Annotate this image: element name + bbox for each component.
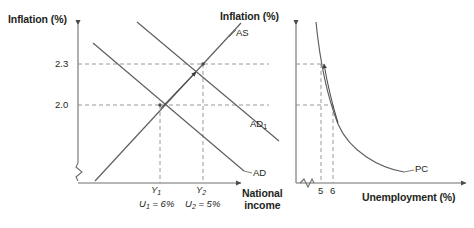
ad-leader-line: [244, 171, 252, 173]
curve-label-pc: PC: [415, 164, 428, 174]
left-equilibrium-points: [158, 62, 204, 106]
right-x-axis-label: Unemployment (%): [362, 192, 456, 203]
left-note-u2: U2 = 5%: [185, 199, 220, 209]
curve-label-as: AS: [236, 28, 249, 38]
left-x-axis-label-line1: National: [242, 188, 283, 200]
left-note-u1-base: U: [139, 198, 146, 209]
equilibrium-point-2: [201, 62, 204, 65]
right-xtick-6: 6: [330, 186, 335, 196]
curve-label-ad1-subscript: 1: [263, 123, 267, 130]
curve-label-ad1: AD1: [250, 119, 267, 129]
figure-canvas: Inflation (%) 2.3 2.0 Y1 Y2 U1 = 6% U2 =…: [0, 0, 474, 228]
pc-leader-line: [404, 170, 414, 172]
as-leader-line: [229, 30, 236, 37]
curve-pc-line: [316, 22, 404, 172]
left-y-axis-label: Inflation (%): [8, 14, 67, 25]
pc-movement-arrow: [324, 64, 338, 123]
left-x-axis-label-line2: income: [242, 200, 283, 212]
left-xtick-y2: Y2: [196, 185, 206, 195]
left-note-u1-value: = 6%: [150, 198, 175, 209]
left-x-axis-label: National income: [242, 188, 283, 211]
left-note-u1-subscript: 1: [146, 203, 150, 210]
left-xtick-y1: Y1: [151, 185, 161, 195]
curve-label-ad: AD: [253, 168, 266, 178]
right-xtick-5: 5: [318, 186, 323, 196]
left-gridlines: [78, 64, 269, 183]
curve-as-line: [95, 23, 241, 181]
equilibrium-point-1: [158, 103, 161, 106]
left-note-u1: U1 = 6%: [139, 199, 174, 209]
left-note-u2-subscript: 2: [192, 203, 196, 210]
left-curves: [93, 22, 279, 181]
curve-label-ad1-base: AD: [250, 118, 263, 129]
left-note-u2-value: = 5%: [196, 198, 221, 209]
left-note-u2-base: U: [185, 198, 192, 209]
curve-ad-line: [93, 43, 244, 171]
right-chart-axes: [296, 25, 466, 187]
ad-shift-arrow: [161, 72, 196, 108]
right-y-axis-label: Inflation (%): [220, 11, 279, 22]
left-ytick-2-0: 2.0: [55, 100, 68, 110]
left-ytick-2-3: 2.3: [55, 59, 68, 69]
left-xtick-y1-subscript: 1: [157, 189, 161, 196]
left-chart-axes: [76, 25, 241, 183]
left-xtick-y2-subscript: 2: [202, 189, 206, 196]
left-y-axis-break: [76, 163, 82, 181]
